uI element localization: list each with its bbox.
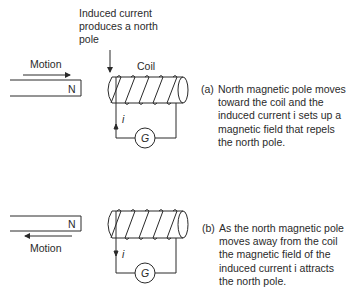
current-label: i	[122, 248, 125, 260]
coil	[108, 210, 188, 240]
annotation-line-3: pole	[79, 33, 99, 45]
galvanometer-label: G	[141, 267, 149, 279]
caption-b-line: the north pole.	[219, 275, 344, 288]
panel-b: N Motion i G	[10, 210, 188, 284]
magnet-pole-label: N	[68, 218, 76, 230]
magnet-pole-label: N	[68, 83, 76, 95]
caption-b-line: induced current i attracts	[219, 262, 344, 275]
caption-b-line: the magnetic field of the	[219, 248, 344, 261]
bar-magnet: N	[10, 80, 81, 96]
bar-magnet: N	[10, 216, 81, 231]
coil	[108, 76, 188, 105]
annotation-line-1: Induced current	[79, 7, 152, 19]
caption-a-line: induced current i sets up a	[218, 109, 346, 122]
panel-a: Induced current produces a north pole Mo…	[10, 7, 188, 148]
caption-b: (b) As the north magnetic pole moves awa…	[202, 222, 344, 288]
annotation-line-2: produces a north	[79, 20, 158, 32]
galvanometer-label: G	[141, 132, 149, 144]
caption-a-line: magnetic field that repels	[218, 123, 346, 136]
motion-label: Motion	[30, 242, 62, 254]
motion-label: Motion	[30, 58, 62, 70]
caption-a: (a) North magnetic pole moves toward the…	[201, 83, 346, 149]
caption-a-line: toward the coil and the	[218, 96, 346, 109]
caption-b-line: moves away from the coil	[219, 235, 344, 248]
caption-b-line: As the north magnetic pole	[219, 222, 344, 235]
caption-a-line: North magnetic pole moves	[218, 83, 346, 96]
coil-label: Coil	[137, 60, 155, 72]
caption-b-label: (b)	[202, 222, 215, 235]
caption-a-line: the north pole.	[218, 136, 346, 149]
current-label: i	[122, 113, 125, 125]
caption-a-label: (a)	[201, 83, 214, 96]
